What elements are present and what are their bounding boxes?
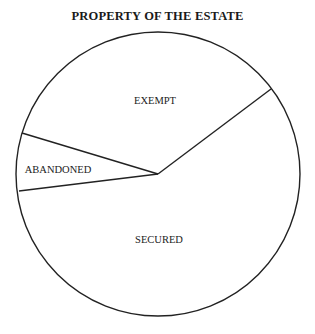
- slice-label-exempt: EXEMPT: [134, 95, 176, 106]
- slice-label-secured: SECURED: [135, 234, 183, 245]
- slice-label-abandoned: ABANDONED: [25, 164, 92, 175]
